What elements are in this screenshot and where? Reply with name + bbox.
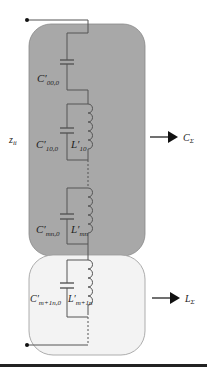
inductive-output-label: LΣ — [184, 293, 196, 306]
bottom-terminal — [25, 343, 29, 347]
capacitive-output-label: CΣ — [183, 132, 195, 145]
top-terminal — [25, 18, 29, 22]
capacitive-region — [29, 24, 145, 256]
bottom-divider — [0, 364, 207, 367]
impedance-label: zii — [8, 134, 17, 147]
circuit-diagram: zii C′00,0 C′10,0 L′10 C′mn,0 L′mn C′m+1… — [0, 0, 207, 371]
capacitive-output-arrow — [150, 131, 178, 143]
inductive-output-arrow — [152, 292, 180, 304]
